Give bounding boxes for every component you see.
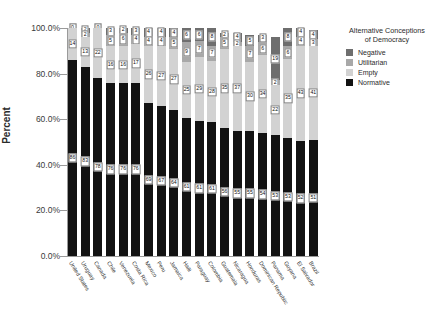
x-label-slot: Guyana bbox=[283, 258, 292, 322]
bar-segment-utilitarian: 3 bbox=[309, 39, 318, 46]
x-label-slot: Dominican Republic bbox=[258, 258, 267, 322]
plot-area: 0014862213830022783516762616763417764426… bbox=[68, 28, 318, 256]
bar-value-label: 16 bbox=[106, 60, 115, 69]
x-label-slot: Costa Rica bbox=[131, 258, 140, 322]
x-label-slot: Panama bbox=[271, 258, 280, 322]
legend-title: Alternative Conceptions of Democracy bbox=[332, 26, 442, 44]
bar-column[interactable]: 221383 bbox=[81, 28, 90, 256]
bar-column[interactable]: 573055 bbox=[245, 28, 254, 256]
bar-segment-empty: 25 bbox=[182, 62, 191, 118]
bar-value-label: 22 bbox=[93, 48, 102, 57]
bar-value-label: 4 bbox=[145, 37, 152, 46]
y-tick-mark bbox=[60, 119, 67, 120]
bar-value-label: 53 bbox=[271, 191, 280, 200]
x-tick-label: Brazil bbox=[308, 260, 321, 275]
bar-column[interactable]: 363454 bbox=[258, 28, 267, 256]
bar-value-label: 86 bbox=[68, 153, 77, 162]
bar-segment-normative: 55 bbox=[245, 131, 254, 256]
bar-column[interactable]: 351676 bbox=[106, 28, 115, 256]
bar-value-label: 25 bbox=[182, 85, 191, 94]
bar-segment-negative: 4 bbox=[169, 28, 178, 37]
bar-column[interactable]: 442669 bbox=[144, 28, 153, 256]
bar-value-label: 35 bbox=[220, 84, 229, 93]
bar-column[interactable]: 341776 bbox=[131, 28, 140, 256]
bar-column[interactable]: 452764 bbox=[169, 28, 178, 256]
legend-swatch-icon bbox=[346, 49, 353, 56]
bar-segment-utilitarian: 4 bbox=[296, 37, 305, 46]
bar-column[interactable]: 863553 bbox=[283, 28, 292, 256]
y-tick-label: 80.0% bbox=[2, 69, 60, 79]
bar-column[interactable]: 442767 bbox=[157, 28, 166, 256]
legend-item[interactable]: Empty bbox=[346, 69, 442, 76]
bar-segment-negative: 5 bbox=[245, 35, 254, 46]
bar-value-label: 34 bbox=[258, 90, 267, 99]
bar-segment-empty: 43 bbox=[296, 46, 305, 141]
bar-column[interactable]: 1922253 bbox=[271, 28, 280, 256]
bar-value-label: 6 bbox=[196, 30, 203, 39]
bar-column[interactable]: 672961 bbox=[195, 28, 204, 256]
bar-value-label: 5 bbox=[246, 36, 253, 45]
y-tick-mark bbox=[60, 210, 67, 211]
bar-segment-utilitarian: 7 bbox=[207, 46, 216, 61]
legend-title-line2: of Democracy bbox=[332, 35, 442, 44]
bar-value-label: 43 bbox=[296, 89, 305, 98]
x-label-slot: Venezuela bbox=[119, 258, 128, 322]
bar-segment-utilitarian: 6 bbox=[258, 42, 267, 56]
bar-value-label: 76 bbox=[106, 165, 115, 174]
bar-column[interactable]: 253556 bbox=[220, 28, 229, 256]
bar-value-label: 19 bbox=[271, 54, 280, 63]
bar-value-label: 27 bbox=[157, 71, 166, 80]
legend-item[interactable]: Negative bbox=[346, 49, 442, 56]
bar-segment-empty: 16 bbox=[119, 46, 128, 82]
bar-column[interactable]: 872861 bbox=[207, 28, 216, 256]
bar-value-label: 29 bbox=[195, 84, 204, 93]
bar-segment-normative: 55 bbox=[233, 131, 242, 256]
bar-segment-negative: 6 bbox=[182, 28, 191, 42]
bar-value-label: 4 bbox=[158, 28, 165, 37]
bar-value-label: 76 bbox=[119, 165, 128, 174]
bar-column[interactable]: 001486 bbox=[68, 28, 77, 256]
bar-value-label: 6 bbox=[259, 44, 266, 53]
bar-segment-utilitarian: 5 bbox=[106, 35, 115, 46]
bar-segment-normative: 53 bbox=[271, 135, 280, 256]
legend-items: NegativeUtilitarianEmptyNormative bbox=[346, 49, 442, 86]
bar-segment-utilitarian: 5 bbox=[169, 37, 178, 48]
chart-root: 100.0%80.0%60.0%40.0%20.0%0.0% Percent 0… bbox=[0, 0, 444, 322]
bar-column[interactable]: 423755 bbox=[233, 28, 242, 256]
legend-title-line1: Alternative Conceptions bbox=[332, 26, 442, 35]
legend-item[interactable]: Utilitarian bbox=[346, 59, 442, 66]
bar-value-label: 4 bbox=[297, 37, 304, 46]
x-label-slot: Guatemala bbox=[220, 258, 229, 322]
legend-swatch-icon bbox=[346, 59, 353, 66]
bar-column[interactable]: 002278 bbox=[93, 28, 102, 256]
bar-value-label: 54 bbox=[258, 190, 267, 199]
x-label-slot: Nicaragua bbox=[233, 258, 242, 322]
bar-value-label: 17 bbox=[131, 59, 140, 68]
bar-column[interactable]: 434151 bbox=[309, 28, 318, 256]
bar-value-label: 53 bbox=[284, 192, 293, 201]
bar-value-label: 4 bbox=[170, 28, 177, 37]
bar-segment-normative: 64 bbox=[169, 110, 178, 256]
bar-segment-normative: 54 bbox=[258, 133, 267, 256]
bar-column[interactable]: 261676 bbox=[119, 28, 128, 256]
bar-value-label: 76 bbox=[131, 165, 140, 174]
legend-item[interactable]: Normative bbox=[346, 79, 442, 86]
bar-segment-utilitarian: 9 bbox=[182, 42, 191, 62]
bar-value-label: 51 bbox=[309, 193, 318, 202]
x-label-slot: Canada bbox=[93, 258, 102, 322]
x-label-slot: United States bbox=[68, 258, 77, 322]
bar-column[interactable]: 692561 bbox=[182, 28, 191, 256]
bar-segment-empty: 16 bbox=[106, 46, 115, 82]
bar-segment-negative: 8 bbox=[283, 28, 292, 46]
bar-value-label: 14 bbox=[68, 39, 77, 48]
bar-segment-empty: 22 bbox=[93, 28, 102, 78]
bar-value-label: 78 bbox=[93, 162, 102, 171]
bar-column[interactable]: 444352 bbox=[296, 28, 305, 256]
bar-segment-utilitarian: 6 bbox=[283, 46, 292, 59]
x-label-slot: Haiti bbox=[182, 258, 191, 322]
bar-segment-negative: 4 bbox=[157, 28, 166, 37]
bar-value-label: 16 bbox=[119, 60, 128, 69]
bar-segment-normative: 86 bbox=[68, 60, 77, 256]
x-label-slot: Colombia bbox=[207, 258, 216, 322]
bar-segment-empty: 30 bbox=[245, 62, 254, 130]
